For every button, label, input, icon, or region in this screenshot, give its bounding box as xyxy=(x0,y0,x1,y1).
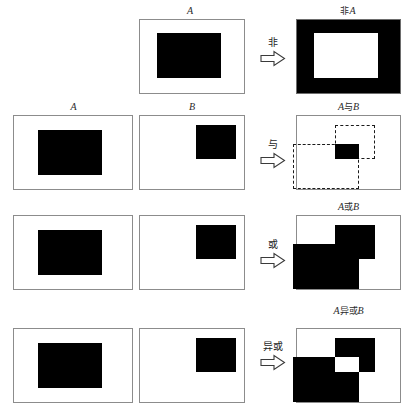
operator-label: 异或 xyxy=(250,340,296,353)
label-text: A xyxy=(70,101,76,112)
result-label-op: 与 xyxy=(344,102,353,112)
label-text: B xyxy=(189,101,195,112)
operator-and: 与 xyxy=(250,138,296,169)
shape-b-rect xyxy=(196,338,236,372)
operator-label: 或 xyxy=(250,238,296,251)
result-label-right: B xyxy=(353,201,359,212)
shape-b-rect xyxy=(196,125,236,159)
panel-result-not xyxy=(296,19,401,94)
logic-operations-figure: A 非 非A A B 与 A与B xyxy=(0,0,407,412)
panel-operand-a-not xyxy=(139,19,245,94)
panel-operand-b-xor xyxy=(139,328,245,403)
result-label-right: B xyxy=(353,101,359,112)
operator-xor: 异或 xyxy=(250,340,296,371)
shape-not-a-hole xyxy=(314,33,378,78)
operator-or: 或 xyxy=(250,238,296,269)
shape-or-union-b xyxy=(335,225,375,259)
label-operand-a-row-and: A xyxy=(13,101,134,113)
rightwards-hollow-arrow-icon xyxy=(260,252,286,269)
label-text: A xyxy=(187,5,193,16)
operator-label: 非 xyxy=(250,36,296,49)
label-result-xor: A异或B xyxy=(296,305,401,317)
panel-operand-b-and xyxy=(139,115,245,190)
label-result-and: A与B xyxy=(296,101,401,113)
result-label-op: 或 xyxy=(344,202,353,212)
label-operand-b-row-and: B xyxy=(139,101,245,113)
shape-and-intersection xyxy=(335,144,359,159)
rightwards-hollow-arrow-icon xyxy=(260,354,286,371)
rightwards-hollow-arrow-icon xyxy=(260,152,286,169)
result-label-op: 异或 xyxy=(340,306,358,316)
result-label-right: B xyxy=(358,305,364,316)
panel-result-or xyxy=(296,215,401,290)
shape-a-rect xyxy=(38,130,102,175)
operator-not: 非 xyxy=(250,36,296,67)
shape-a-rect xyxy=(157,33,221,78)
shape-xor-hole xyxy=(335,357,359,372)
panel-operand-b-or xyxy=(139,215,245,290)
label-result-or: A或B xyxy=(296,201,401,213)
rightwards-hollow-arrow-icon xyxy=(260,50,286,67)
result-label-operand: A xyxy=(349,5,355,16)
panel-result-and xyxy=(296,115,401,190)
operator-label: 与 xyxy=(250,138,296,151)
shape-b-rect xyxy=(196,225,236,259)
panel-result-xor xyxy=(296,328,401,403)
label-operand-a-row-not: A xyxy=(135,5,245,17)
panel-operand-a-and xyxy=(13,115,133,190)
label-result-not: 非A xyxy=(295,5,401,17)
shape-a-rect xyxy=(38,343,102,388)
panel-operand-a-xor xyxy=(13,328,133,403)
panel-operand-a-or xyxy=(13,215,133,290)
shape-a-rect xyxy=(38,230,102,275)
